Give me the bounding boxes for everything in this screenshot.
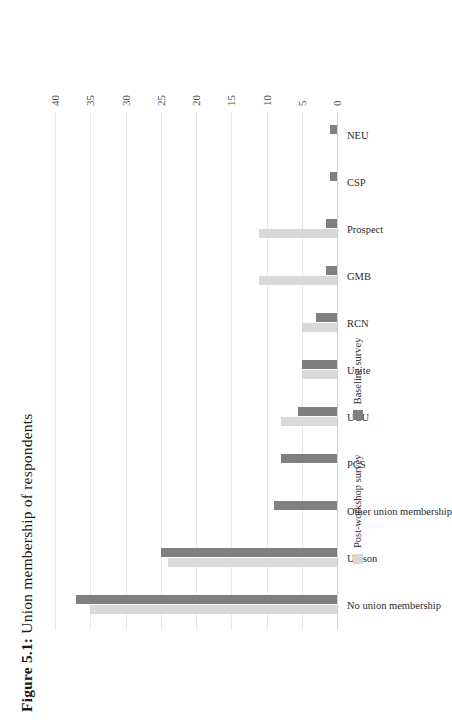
bar-group	[55, 265, 337, 285]
bar-group	[55, 594, 337, 614]
figure-title: Figure 5.1: Union membership of responde…	[18, 414, 36, 712]
bar	[316, 313, 337, 322]
bar	[326, 266, 337, 275]
figure-caption: Union membership of respondents	[18, 414, 35, 638]
legend-item: Baseline survey	[352, 338, 363, 421]
legend-label: Post-workshop survey	[352, 454, 363, 548]
gridline	[337, 112, 338, 630]
y-tick-label: 20	[190, 95, 202, 106]
category-label: No union membership	[347, 600, 441, 611]
legend-item: Post-workshop survey	[352, 454, 363, 564]
bar	[281, 417, 337, 426]
y-tick-label: 0	[331, 101, 343, 107]
bar-series-container	[55, 112, 337, 630]
y-tick-label: 30	[120, 95, 132, 106]
bar	[302, 360, 337, 369]
y-tick-label: 25	[155, 95, 167, 106]
bar-group	[55, 171, 337, 191]
bar	[330, 125, 337, 134]
category-label: CSP	[347, 177, 366, 188]
bar	[326, 219, 337, 228]
bar	[330, 172, 337, 181]
y-tick-label: 10	[261, 95, 273, 106]
bar-group	[55, 547, 337, 567]
bar	[298, 407, 337, 416]
y-tick-label: 5	[296, 101, 308, 107]
bar	[281, 454, 337, 463]
bar-group	[55, 312, 337, 332]
figure-number: Figure 5.1:	[18, 638, 35, 712]
bar	[168, 558, 337, 567]
category-label: Prospect	[347, 224, 383, 235]
legend-swatch	[353, 554, 363, 564]
category-label: NEU	[347, 130, 369, 141]
bar	[259, 229, 337, 238]
bar	[274, 501, 337, 510]
y-tick-label: 40	[49, 95, 61, 106]
y-tick-label: 15	[225, 95, 237, 106]
y-tick-label: 35	[84, 95, 96, 106]
bar-group	[55, 453, 337, 473]
category-label: RCN	[347, 318, 369, 329]
bar	[302, 323, 337, 332]
bar	[161, 548, 337, 557]
bar	[90, 605, 337, 614]
legend-label: Baseline survey	[352, 338, 363, 405]
bar-group	[55, 218, 337, 238]
bar-group	[55, 124, 337, 144]
bar-group	[55, 359, 337, 379]
legend-swatch	[353, 410, 363, 420]
bar-group	[55, 500, 337, 520]
bar-group	[55, 406, 337, 426]
bar	[259, 276, 337, 285]
bar	[302, 370, 337, 379]
chart-legend: Post-workshop surveyBaseline survey	[352, 338, 363, 564]
plot-area: 0510152025303540 No union membershipUnis…	[55, 112, 337, 630]
category-label: GMB	[347, 271, 371, 282]
bar	[76, 595, 337, 604]
